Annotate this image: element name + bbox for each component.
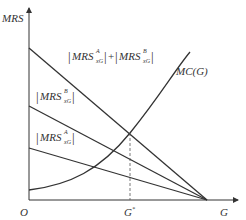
svg-text:MRS: MRS [39, 90, 62, 102]
svg-text:|: | [36, 89, 39, 104]
svg-text:A: A [63, 129, 68, 135]
mrs-b-label: | MRS B xG | [36, 88, 75, 104]
svg-text:xG: xG [95, 58, 104, 64]
svg-text:|: | [115, 49, 118, 64]
svg-text:xG: xG [63, 139, 72, 145]
svg-text:|: | [72, 89, 75, 104]
svg-text:|: | [151, 49, 154, 64]
svg-text:MRS: MRS [39, 131, 62, 143]
svg-text:B: B [64, 88, 68, 94]
mc-curve [29, 52, 190, 190]
svg-text:xG: xG [63, 98, 72, 104]
svg-text:|: | [36, 130, 39, 145]
diagram-canvas: MRS G O G* | MRS A xG | + | MRS B xG | |… [0, 0, 246, 220]
svg-text:|: | [104, 49, 107, 64]
svg-text:+: + [108, 50, 114, 62]
mrs-b-line [29, 106, 207, 200]
sum-mrs-label: | MRS A xG | + | MRS B xG | [68, 48, 154, 64]
svg-text:xG: xG [142, 58, 151, 64]
svg-text:|: | [68, 49, 71, 64]
svg-text:MRS: MRS [118, 50, 141, 62]
svg-text:MRS: MRS [71, 50, 94, 62]
y-axis-label: MRS [1, 12, 24, 24]
mc-label: MC(G) [175, 65, 208, 78]
x-axis-label: G [220, 206, 228, 218]
origin-label: O [20, 206, 28, 218]
svg-text:|: | [72, 130, 75, 145]
svg-text:A: A [95, 48, 100, 54]
mrs-a-line [29, 148, 207, 200]
svg-text:B: B [143, 48, 147, 54]
g-star-label: G* [124, 206, 135, 218]
mrs-a-label: | MRS A xG | [36, 129, 75, 145]
